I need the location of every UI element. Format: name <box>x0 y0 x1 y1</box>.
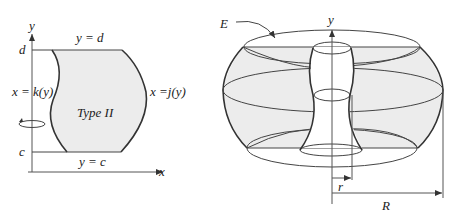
inner-radius-label-r: r <box>338 179 344 194</box>
type-ii-region-fill <box>50 50 146 152</box>
left-panel-type-ii-region: y x d c y = d y = c x = k(y) x =j(y) Typ… <box>11 18 186 179</box>
solid-label-E: E <box>219 16 228 31</box>
region-label-type-ii: Type II <box>77 105 114 120</box>
left-y-axis-label: y <box>27 18 35 33</box>
label-y-equals-d: y = d <box>74 30 104 45</box>
label-x-equals-j-of-y: x =j(y) <box>149 84 186 99</box>
tick-label-d: d <box>19 42 26 57</box>
label-x-equals-k-of-y: x = k(y) <box>11 84 53 99</box>
left-x-axis-label: x <box>158 164 165 179</box>
label-y-equals-c: y = c <box>77 154 106 169</box>
right-y-axis-label: y <box>326 12 334 27</box>
right-panel-solid-of-revolution: y E r R <box>219 12 443 213</box>
outer-radius-label-R: R <box>381 198 390 213</box>
diagram-canvas: y x d c y = d y = c x = k(y) x =j(y) Typ… <box>0 0 454 218</box>
tick-label-c: c <box>19 144 25 159</box>
